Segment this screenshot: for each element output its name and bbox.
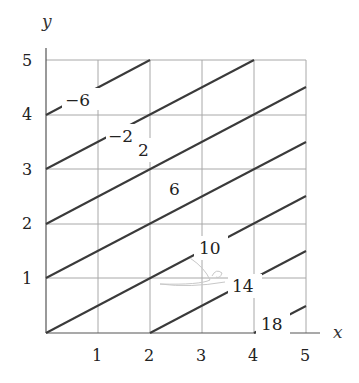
svg-text:5: 5 <box>22 51 32 70</box>
contour-line-6 <box>46 142 306 278</box>
contour-label: 10 <box>199 238 221 258</box>
svg-text:4: 4 <box>22 105 32 124</box>
pencil-annotation <box>160 258 225 286</box>
x-tick-labels: 1 2 3 4 5 <box>92 346 310 365</box>
contour-label: 2 <box>138 140 149 160</box>
y-tick-labels: 1 2 3 4 5 <box>22 51 32 288</box>
svg-text:5: 5 <box>300 346 310 365</box>
svg-text:2: 2 <box>144 346 154 365</box>
x-axis-label: x <box>333 322 343 342</box>
contour-label: −2 <box>108 126 133 146</box>
contour-label: 14 <box>232 276 254 296</box>
contour-label: −6 <box>65 90 90 110</box>
contour-label-gaps <box>62 88 290 335</box>
contour-label: 18 <box>261 314 283 334</box>
svg-text:3: 3 <box>22 160 32 179</box>
contour-plot: −6 −2 2 6 10 14 18 1 2 3 4 5 1 2 3 4 5 y… <box>0 0 359 383</box>
svg-text:1: 1 <box>92 346 102 365</box>
contour-label: 6 <box>169 179 180 199</box>
y-axis-label: y <box>41 11 52 31</box>
svg-text:1: 1 <box>22 269 32 288</box>
svg-text:4: 4 <box>248 346 258 365</box>
svg-text:3: 3 <box>196 346 206 365</box>
contour-line-10 <box>46 196 306 333</box>
svg-text:2: 2 <box>22 214 32 233</box>
